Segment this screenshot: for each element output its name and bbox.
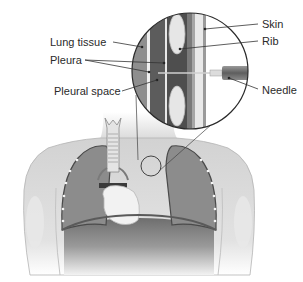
diagram-illustration [0, 0, 303, 282]
label-pleural-space: Pleural space [54, 85, 121, 97]
abdomen [64, 218, 214, 275]
thoracentesis-diagram: Lung tissue Pleura Pleural space Skin Ri… [0, 0, 303, 282]
label-pleura: Pleura [50, 54, 82, 66]
label-skin: Skin [262, 18, 283, 30]
label-lung-tissue: Lung tissue [50, 36, 106, 48]
label-needle: Needle [262, 84, 297, 96]
label-rib: Rib [262, 35, 279, 47]
